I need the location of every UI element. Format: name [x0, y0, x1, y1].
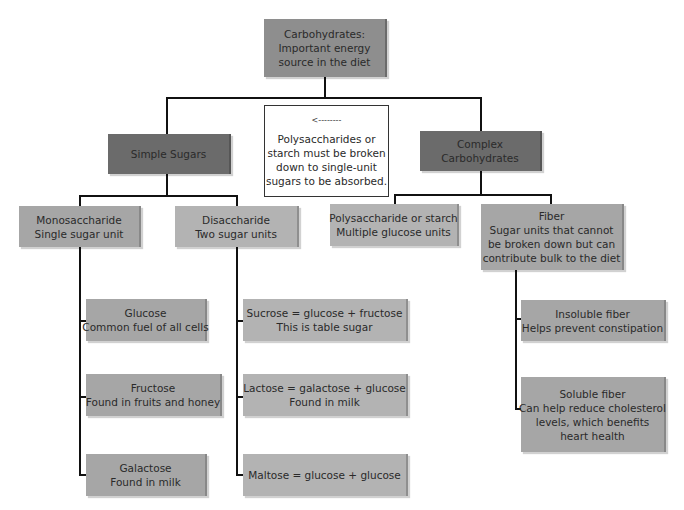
node-text: Maltose = glucose + glucose [248, 468, 401, 482]
node-fructose: Fructose Found in fruits and honey [86, 374, 222, 416]
node-text: Simple Sugars [131, 147, 206, 161]
node-text: Soluble fiber [559, 387, 625, 401]
node-carbohydrates: Carbohydrates: Important energy source i… [264, 19, 387, 77]
node-glucose: Glucose Common fuel of all cells [86, 299, 207, 341]
node-text: Insoluble fiber [555, 307, 630, 321]
connector [394, 194, 396, 204]
node-text: Monosaccharide [36, 213, 121, 227]
node-complex-carbohydrates: Complex Carbohydrates [420, 131, 542, 171]
node-galactose: Galactose Found in milk [86, 454, 207, 496]
node-text: This is table sugar [277, 320, 373, 334]
node-text: heart health [560, 429, 625, 443]
node-text: Sucrose = glucose + fructose [247, 306, 403, 320]
connector [166, 174, 168, 197]
connector [166, 97, 482, 99]
node-text: Sugar units that cannot [490, 223, 614, 237]
node-text: be broken down but can [488, 237, 615, 251]
node-text: Glucose [125, 306, 167, 320]
node-text: Lactose = galactose + glucose [243, 381, 406, 395]
connector [79, 195, 238, 197]
connector [236, 474, 243, 476]
node-text: Found in milk [110, 475, 180, 489]
connector [79, 247, 81, 476]
connector [236, 396, 243, 398]
node-text: Polysaccharide or starch [329, 211, 457, 225]
node-text: Galactose [119, 461, 171, 475]
node-text: source in the diet [279, 55, 371, 69]
node-fiber: Fiber Sugar units that cannot be broken … [481, 204, 624, 270]
connector [324, 77, 326, 99]
node-monosaccharide: Monosaccharide Single sugar unit [19, 206, 141, 247]
node-text: Helps prevent constipation [522, 321, 663, 335]
node-text: Two sugar units [195, 227, 277, 241]
note-box: <-------- Polysaccharides or starch must… [264, 105, 389, 197]
connector [394, 194, 552, 196]
node-text: Multiple glucose units [336, 225, 451, 239]
node-text: Carbohydrates [441, 151, 519, 165]
note-text: down to single-unit [276, 160, 377, 174]
node-disaccharide: Disaccharide Two sugar units [175, 206, 299, 247]
node-insoluble-fiber: Insoluble fiber Helps prevent constipati… [521, 300, 666, 341]
dashed-arrow-left-icon: <-------- [312, 114, 342, 128]
node-text: Complex [457, 137, 503, 151]
connector [166, 97, 168, 134]
node-lactose: Lactose = galactose + glucose Found in m… [243, 374, 408, 416]
node-text: levels, which benefits [536, 415, 649, 429]
node-text: contribute bulk to the diet [483, 251, 621, 265]
node-text: Carbohydrates: [284, 27, 365, 41]
node-text: Found in milk [289, 395, 359, 409]
node-polysaccharide: Polysaccharide or starch Multiple glucos… [330, 204, 459, 246]
node-text: Single sugar unit [35, 227, 124, 241]
connector [79, 474, 86, 476]
note-text: Polysaccharides or [278, 132, 376, 146]
connector [515, 270, 517, 410]
note-text: starch must be broken [267, 146, 385, 160]
node-text: Fructose [131, 381, 176, 395]
node-soluble-fiber: Soluble fiber Can help reduce cholestero… [521, 377, 666, 452]
connector [236, 320, 243, 322]
node-text: Found in fruits and honey [86, 395, 220, 409]
note-text: sugars to be absorbed. [266, 174, 387, 188]
node-text: Fiber [539, 209, 565, 223]
connector [550, 194, 552, 204]
node-simple-sugars: Simple Sugars [108, 134, 231, 174]
node-maltose: Maltose = glucose + glucose [243, 454, 408, 496]
node-sucrose: Sucrose = glucose + fructose This is tab… [243, 299, 408, 341]
node-text: Disaccharide [202, 213, 270, 227]
node-text: Can help reduce cholesterol [519, 401, 666, 415]
connector [236, 247, 238, 476]
connector [236, 195, 238, 206]
connector [79, 195, 81, 206]
node-text: Common fuel of all cells [82, 320, 208, 334]
connector [480, 171, 482, 195]
node-text: Important energy [279, 41, 371, 55]
connector [480, 97, 482, 131]
